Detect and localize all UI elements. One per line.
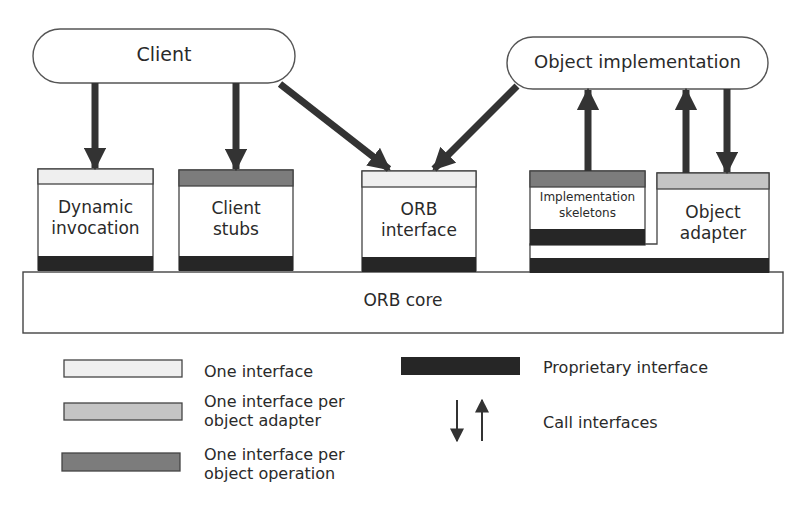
proprietary-interface-band bbox=[362, 257, 476, 272]
legend-call-arrows-icon bbox=[457, 400, 482, 441]
client-stubs-line-1: Client bbox=[179, 198, 293, 219]
orb-interface-line-1: ORB bbox=[362, 199, 476, 220]
proprietary-interface-band bbox=[530, 229, 645, 245]
legend-swatch-per-operation bbox=[62, 453, 180, 471]
legend-text: object adapter bbox=[204, 411, 345, 430]
orb-interface-line-2: interface bbox=[362, 220, 476, 241]
implementation-skeletons-line-2: skeletons bbox=[530, 206, 645, 222]
orb-interface-label: ORB interface bbox=[362, 199, 476, 240]
legend-swatch-one-interface bbox=[64, 360, 182, 377]
orb-core-label: ORB core bbox=[23, 290, 783, 311]
client-stubs-line-2: stubs bbox=[179, 219, 293, 240]
dynamic-invocation-label: Dynamic invocation bbox=[38, 197, 153, 238]
legend-swatch-per-adapter bbox=[64, 403, 182, 420]
implementation-skeletons-line-1: Implementation bbox=[530, 190, 645, 206]
per-adapter-band bbox=[657, 173, 769, 189]
legend-text: One interface per bbox=[204, 392, 345, 411]
legend-label-proprietary: Proprietary interface bbox=[543, 358, 708, 377]
one-interface-band bbox=[362, 171, 476, 187]
legend-text: One interface bbox=[204, 362, 313, 381]
legend-swatch-proprietary bbox=[401, 357, 520, 375]
implementation-skeletons-label: Implementation skeletons bbox=[530, 190, 645, 221]
corba-architecture-diagram bbox=[0, 0, 808, 513]
per-operation-band bbox=[530, 171, 645, 187]
proprietary-interface-band bbox=[38, 256, 153, 271]
legend-text: Proprietary interface bbox=[543, 358, 708, 377]
legend-text: One interface per bbox=[204, 445, 345, 464]
object-adapter-line-1: Object bbox=[657, 202, 769, 223]
client-label: Client bbox=[33, 43, 295, 66]
per-operation-band bbox=[179, 170, 293, 186]
legend-text: object operation bbox=[204, 464, 345, 483]
object-adapter-line-2: adapter bbox=[657, 223, 769, 244]
object-implementation-label: Object implementation bbox=[507, 51, 768, 73]
client-stubs-label: Client stubs bbox=[179, 198, 293, 239]
legend-label-per-adapter: One interface per object adapter bbox=[204, 392, 345, 430]
dynamic-invocation-line-1: Dynamic bbox=[38, 197, 153, 218]
legend-text: Call interfaces bbox=[543, 413, 658, 432]
proprietary-interface-band bbox=[530, 258, 769, 273]
one-interface-band bbox=[38, 169, 153, 184]
call-arrows bbox=[95, 83, 727, 173]
object-adapter-label: Object adapter bbox=[657, 202, 769, 243]
legend-label-one-interface: One interface bbox=[204, 362, 313, 381]
proprietary-interface-band bbox=[179, 256, 293, 271]
legend-label-per-operation: One interface per object operation bbox=[204, 445, 345, 483]
dynamic-invocation-line-2: invocation bbox=[38, 218, 153, 239]
legend-label-call-interfaces: Call interfaces bbox=[543, 413, 658, 432]
arrow-client-to-orb-interface bbox=[280, 84, 389, 169]
arrow-object-impl-to-orb-interface bbox=[434, 86, 517, 169]
